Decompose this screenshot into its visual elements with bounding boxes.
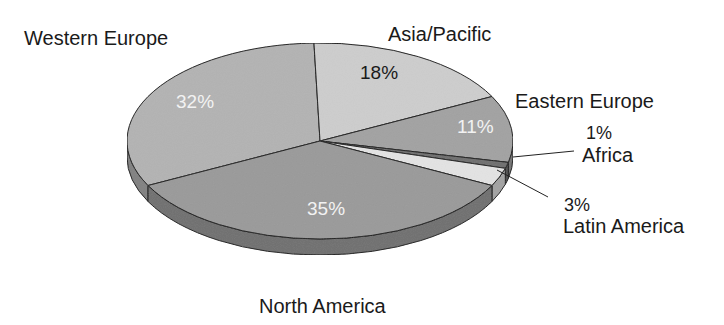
label-eastern-europe: Eastern Europe	[515, 91, 654, 111]
label-asia-pacific: Asia/Pacific	[388, 24, 491, 44]
pct-asia-pacific: 18%	[360, 63, 398, 82]
label-north-america: North America	[259, 296, 386, 316]
label-latin-america: Latin America	[563, 216, 684, 236]
pct-north-america: 35%	[307, 199, 345, 218]
pct-western-europe: 32%	[176, 92, 214, 111]
label-western-europe: Western Europe	[24, 28, 168, 48]
label-africa: Africa	[582, 145, 633, 165]
label-africa-pct: 1%	[586, 124, 612, 142]
pct-eastern-europe: 11%	[457, 117, 494, 136]
label-latin-america-pct: 3%	[564, 196, 590, 214]
